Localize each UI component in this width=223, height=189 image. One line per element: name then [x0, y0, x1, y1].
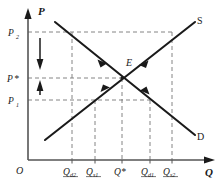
y-axis-label: P — [38, 5, 45, 17]
y-tick-label-p1: P 1 — [7, 96, 19, 108]
svg-text:2: 2 — [16, 34, 19, 40]
svg-text:*: * — [14, 74, 19, 84]
x-tick-label-qd2: Q d2 — [63, 167, 78, 178]
supply-curve — [45, 22, 195, 140]
x-tick-labels: Q d2 Q s1 Q * Q d1 Q s2 — [63, 167, 178, 178]
supply-curve-label: S — [197, 15, 203, 26]
x-axis-arrowhead — [204, 157, 215, 164]
svg-text:s1: s1 — [93, 172, 98, 178]
y-tick-label-pstar: P * — [6, 74, 19, 84]
svg-text:Q: Q — [86, 167, 93, 177]
svg-text:Q: Q — [141, 167, 148, 177]
axes — [24, 8, 215, 163]
x-axis-label: Q — [205, 166, 213, 178]
y-tick-label-p2: P 2 — [7, 28, 19, 40]
equilibrium-label: E — [125, 57, 132, 68]
arrow-up-head — [37, 80, 44, 91]
x-tick-label-qs1: Q s1 — [86, 167, 101, 178]
demand-curve-label: D — [197, 131, 204, 142]
arrow-down-head — [37, 59, 44, 70]
y-axis-arrowhead — [24, 8, 31, 19]
price-adjustment-arrows — [37, 38, 44, 95]
svg-text:Q: Q — [114, 167, 121, 177]
equilibrium-point — [120, 76, 123, 79]
svg-text:Q: Q — [163, 167, 170, 177]
svg-text:P: P — [7, 96, 14, 106]
svg-text:d2: d2 — [70, 172, 76, 178]
origin-label: O — [16, 165, 23, 176]
x-tick-label-qstar: Q * — [114, 167, 126, 177]
svg-text:1: 1 — [16, 102, 19, 108]
svg-text:P: P — [6, 74, 13, 84]
x-tick-label-qs2: Q s2 — [163, 167, 178, 178]
y-tick-labels: P 2 P * P 1 — [6, 28, 19, 108]
svg-text:Q: Q — [63, 167, 70, 177]
svg-text:d1: d1 — [148, 172, 154, 178]
svg-text:P: P — [7, 28, 14, 38]
svg-text:*: * — [121, 167, 126, 177]
svg-text:s2: s2 — [170, 172, 175, 178]
supply-curve-line — [45, 22, 195, 140]
supply-demand-chart: P Q O P 2 P * P 1 Q d2 — [0, 0, 223, 189]
x-tick-label-qd1: Q d1 — [141, 167, 156, 178]
